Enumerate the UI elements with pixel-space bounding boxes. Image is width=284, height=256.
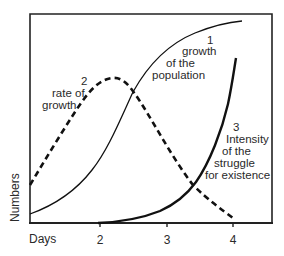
annotation-3-line2: of the xyxy=(222,145,251,157)
x-tick-label-2: 2 xyxy=(97,233,104,247)
x-tick-label-4: 4 xyxy=(230,233,237,247)
annotation-1-line2: of the xyxy=(166,57,195,69)
curve-intensity-of-struggle xyxy=(98,58,236,223)
annotation-3-line1: Intensity xyxy=(226,133,269,145)
annotation-3-line4: for existence xyxy=(205,169,270,181)
annotation-1-line1: growth xyxy=(182,45,217,57)
annotation-1-line3: population xyxy=(152,69,205,81)
x-tick-label-3: 3 xyxy=(164,233,171,247)
y-axis-label: Numbers xyxy=(8,173,22,222)
plot-frame xyxy=(30,14,272,223)
annotation-2-line1: rate of xyxy=(52,87,85,99)
chart-canvas xyxy=(0,0,284,256)
annotation-2-line2: growth xyxy=(42,99,77,111)
annotation-2-number: 2 xyxy=(81,75,87,87)
annotation-3-line3: struggle xyxy=(214,157,255,169)
annotation-3-number: 3 xyxy=(233,121,239,133)
x-axis-label: Days xyxy=(29,233,56,245)
